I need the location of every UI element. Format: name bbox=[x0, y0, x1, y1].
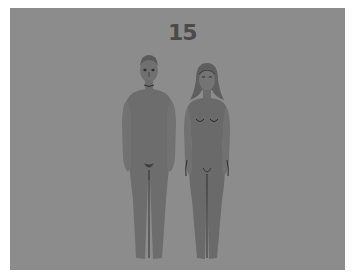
figures-illustration bbox=[0, 0, 355, 279]
female-figure bbox=[184, 63, 230, 259]
male-figure bbox=[122, 55, 176, 259]
